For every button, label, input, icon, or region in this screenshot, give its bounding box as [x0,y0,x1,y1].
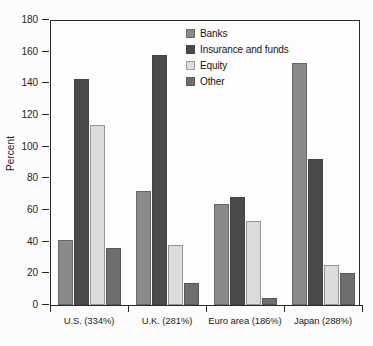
y-axis-tick-mark [42,82,49,83]
bar-group [284,20,362,305]
bar [292,63,307,305]
y-axis-tick-mark [42,272,49,273]
y-axis-tick: 20 [0,267,50,279]
bar [214,204,229,305]
y-axis-tick-mark [42,51,49,52]
x-axis-category-label: Euro area (186%) [206,315,284,326]
x-axis-group-separator [206,305,207,312]
bar [90,125,105,306]
y-axis-tick: 60 [0,204,50,216]
legend-item-banks: Banks [186,26,289,41]
legend-item-other: Other [186,74,289,89]
bar [246,221,261,305]
y-axis-tick-label: 20 [4,267,38,279]
y-axis-tick-label: 120 [4,109,38,121]
legend-label-banks: Banks [200,28,227,39]
bar [340,273,355,305]
bar [230,197,245,305]
legend-label-other: Other [200,76,225,87]
y-axis-tick-mark [42,209,49,210]
y-axis-tick: 180 [0,14,50,26]
y-axis-tick-mark [42,114,49,115]
bar [58,240,73,305]
legend-label-insurance-and-funds: Insurance and funds [200,44,289,55]
legend-item-insurance-and-funds: Insurance and funds [186,42,289,57]
bar [106,248,121,305]
y-axis-tick-mark [42,304,49,305]
x-axis-category-label: U.S. (334%) [50,315,128,326]
bar [262,298,277,305]
legend-swatch-other [186,77,195,86]
bar [324,265,339,305]
y-axis-tick-label: 160 [4,46,38,58]
legend-label-equity: Equity [200,60,227,71]
bar-group [50,20,128,305]
bar-group-bars [50,20,128,305]
x-axis-group-separator [284,305,285,312]
x-axis-group-separator [128,305,129,312]
bar [136,191,151,305]
x-axis-group-separator [362,305,363,312]
legend-item-equity: Equity [186,58,289,73]
legend-swatch-banks [186,29,195,38]
bar [184,283,199,305]
y-axis-tick-label: 140 [4,77,38,89]
y-axis-tick: 140 [0,77,50,89]
y-axis-tick-label: 40 [4,236,38,248]
y-axis-tick: 120 [0,109,50,121]
x-axis-category-label: U.K. (281%) [128,315,206,326]
y-axis-tick: 160 [0,46,50,58]
bar [74,79,89,305]
y-axis-tick-label: 0 [4,299,38,311]
bar-group-bars [284,20,362,305]
legend-swatch-insurance-and-funds [186,45,195,54]
chart-legend: Banks Insurance and funds Equity Other [186,26,289,90]
x-axis-category-label: Japan (288%) [284,315,362,326]
y-axis-title: Percent [5,124,16,184]
legend-swatch-equity [186,61,195,70]
bar [308,159,323,305]
bar [152,55,167,305]
y-axis-tick-mark [42,146,49,147]
y-axis-tick: 0 [0,299,50,311]
y-axis-tick-mark [42,177,49,178]
y-axis-tick: 40 [0,236,50,248]
bar [168,245,183,305]
x-axis-group-separator [50,305,51,312]
y-axis-tick-label: 60 [4,204,38,216]
bar-chart-figure: 020406080100120140160180 Percent U.S. (3… [0,0,373,346]
y-axis-tick-mark [42,241,49,242]
y-axis-tick-label: 180 [4,14,38,26]
y-axis-tick-mark [42,19,49,20]
